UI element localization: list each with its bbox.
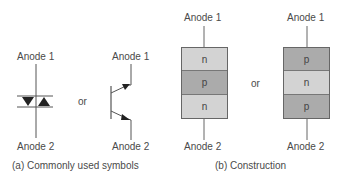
triac-anode1-label: Anode 1 [17, 51, 54, 62]
transistor-anode2-label: Anode 2 [112, 141, 149, 152]
symbols-caption: (a) Commonly used symbols [12, 160, 139, 171]
pnp-layer-3: p [284, 95, 329, 118]
triac-symbol-icon [17, 64, 53, 138]
construction-or-label: or [251, 78, 260, 89]
npn-anode2-label: Anode 2 [184, 141, 221, 152]
npn-layer-2: p [182, 71, 227, 95]
transistor-symbol-icon [111, 64, 131, 140]
construction-caption: (b) Construction [215, 160, 286, 171]
pnp-anode2-label: Anode 2 [287, 141, 324, 152]
pnp-anode1-label: Anode 1 [287, 12, 324, 23]
pnp-stack: p n p [283, 47, 330, 119]
npn-layer-3: n [182, 95, 227, 118]
transistor-anode1-label: Anode 1 [112, 51, 149, 62]
pnp-layer-2: n [284, 71, 329, 95]
symbols-or-label: or [78, 96, 87, 107]
pnp-layer-1: p [284, 48, 329, 71]
npn-anode1-label: Anode 1 [184, 12, 221, 23]
triac-anode2-label: Anode 2 [17, 141, 54, 152]
npn-stack: n p n [181, 47, 228, 119]
npn-layer-1: n [182, 48, 227, 71]
